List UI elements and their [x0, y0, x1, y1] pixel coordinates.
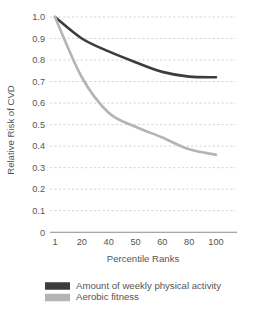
x-axis-tick-label: 40: [104, 237, 114, 247]
legend-swatch: [45, 282, 70, 290]
legend: Amount of weekly physical activityAerobi…: [45, 280, 221, 303]
legend-label: Amount of weekly physical activity: [76, 280, 221, 291]
legend-label: Aerobic fitness: [76, 291, 139, 302]
y-axis-tick-label: 0.6: [32, 98, 45, 108]
y-axis-tick-label: 0.4: [32, 141, 45, 151]
y-axis-tick-label: 1.0: [32, 12, 45, 22]
x-axis-tick-label: 20: [77, 237, 87, 247]
data-series-group: [55, 17, 216, 155]
x-axis-tick-labels: 12040506080100: [52, 237, 223, 247]
y-axis-tick-labels: 00.10.20.30.40.50.60.70.80.91.0: [32, 12, 45, 237]
y-axis-tick-label: 0.1: [32, 206, 45, 216]
x-axis-tick-label: 80: [184, 237, 194, 247]
y-axis-tick-label: 0.9: [32, 34, 45, 44]
y-axis-tick-label: 0.2: [32, 184, 45, 194]
y-axis-tick-label: 0: [40, 228, 45, 238]
x-axis-title: Percentile Ranks: [107, 253, 180, 264]
chart-container: 00.10.20.30.40.50.60.70.80.91.0 12040506…: [0, 0, 270, 313]
series-line-1: [55, 17, 216, 77]
x-axis-tick-label: 50: [130, 237, 140, 247]
y-axis-title: Relative Risk of CVD: [5, 85, 16, 175]
y-axis-tick-label: 0.5: [32, 120, 45, 130]
y-axis-tick-label: 0.8: [32, 55, 45, 65]
y-axis-tick-label: 0.3: [32, 163, 45, 173]
x-axis-tick-label: 100: [208, 237, 223, 247]
x-axis-tick-label: 1: [52, 237, 57, 247]
x-axis-tick-label: 60: [157, 237, 167, 247]
legend-swatch: [45, 294, 70, 302]
relative-risk-line-chart: 00.10.20.30.40.50.60.70.80.91.0 12040506…: [0, 0, 270, 313]
y-axis-tick-label: 0.7: [32, 77, 45, 87]
gridlines-group: [50, 17, 236, 211]
